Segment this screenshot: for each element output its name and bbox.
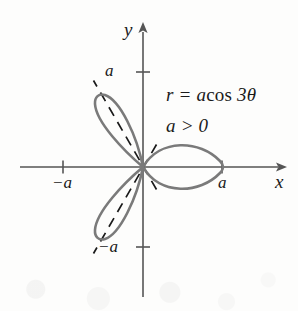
equation-line-condition: a > 0 bbox=[166, 115, 256, 137]
x-tick-label-negative-a: −a bbox=[52, 174, 72, 191]
equation-annotation: r = acos 3θ a > 0 bbox=[166, 84, 256, 137]
y-tick-label-a: a bbox=[105, 62, 114, 79]
plot-canvas bbox=[0, 0, 298, 311]
x-axis bbox=[20, 161, 287, 174]
equation-line-polar: r = acos 3θ bbox=[166, 84, 256, 106]
equation-cos-operator: cos bbox=[206, 84, 232, 105]
petal-lower-left bbox=[95, 167, 143, 240]
x-axis-label: x bbox=[275, 172, 283, 191]
equation-argument: 3θ bbox=[232, 84, 256, 105]
y-tick-label-negative-a: −a bbox=[98, 238, 118, 255]
x-tick-label-a: a bbox=[218, 174, 227, 191]
petal-upper-left bbox=[95, 94, 143, 167]
polar-rose-figure: y x a −a a −a r = acos 3θ a > 0 bbox=[0, 0, 298, 311]
y-axis-label: y bbox=[124, 20, 132, 39]
equation-lhs: r = a bbox=[166, 84, 206, 105]
y-axis-arrowhead bbox=[138, 22, 147, 33]
